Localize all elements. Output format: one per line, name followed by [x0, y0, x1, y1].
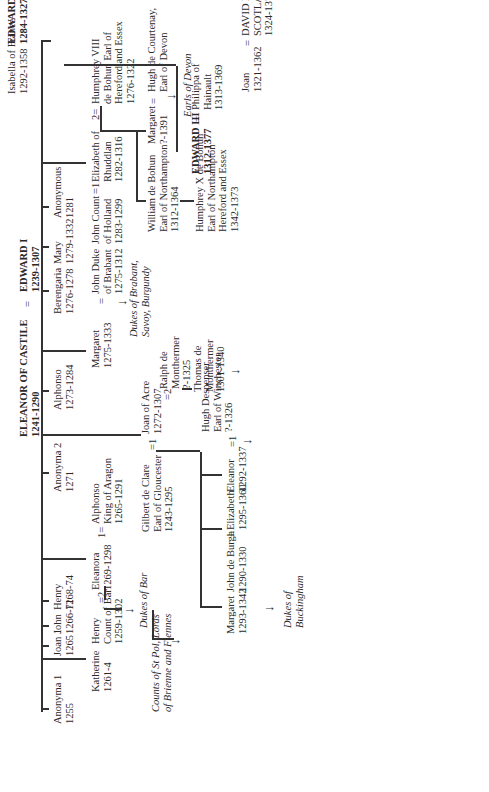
person-william-de-bohun: William de BohunEarl of Northampton1312-…: [146, 145, 181, 232]
marriage-symbol: =1: [227, 436, 238, 447]
marriage-symbol: =: [148, 98, 159, 104]
connector: [100, 130, 136, 132]
marriage-symbol: =: [22, 301, 33, 307]
marriage-symbol: =: [242, 40, 253, 46]
person-anonymous: Anonymous1281: [52, 167, 75, 218]
person-katherine: Katherine1261-4: [90, 651, 113, 692]
connector: [41, 350, 86, 352]
person-margaret: Margaret1275-1333: [90, 323, 113, 369]
connector: [41, 708, 49, 710]
person-john-duke-of-brabant: John Dukeof Brabant1275-1312: [90, 249, 125, 295]
connector: [136, 132, 138, 202]
connector: [176, 66, 178, 152]
connector: [41, 246, 49, 248]
connector: [100, 106, 102, 132]
person-eleanor-of-castile: ELEANOR OF CASTILE 1241-1290: [18, 320, 41, 437]
person-henry: Henry1268-74: [52, 575, 75, 610]
connector: [64, 64, 176, 66]
connector: [41, 162, 86, 164]
connector: [41, 434, 141, 436]
person-anonyma-2: Anonyma 21271: [52, 443, 75, 492]
connector: [200, 528, 222, 530]
person-elizabeth-of-rhuddlan: Elizabeth ofRhuddlan1282-1316: [90, 131, 125, 182]
person-john-de-burgh: John de Burgh1290-1330: [225, 531, 248, 592]
marriage-symbol: =: [227, 531, 238, 537]
person-eleanora: Eleanora1269-1298: [90, 545, 113, 591]
connector: [200, 474, 222, 476]
connector: [156, 450, 200, 452]
person-mary: Mary1279-1332: [52, 219, 75, 265]
person-anonyma-1: Anonyma 11255: [52, 675, 75, 724]
connector: [41, 206, 49, 208]
connector: [41, 658, 86, 660]
connector: [104, 608, 122, 610]
connector: [41, 472, 49, 474]
connector: [182, 388, 192, 390]
person-philippa-of-hainault: Philippa ofHainault1313-1369: [190, 64, 225, 110]
marriage-symbol: =1: [147, 439, 158, 450]
person-edward-i: EDWARD I 1239-1307: [18, 239, 41, 292]
person-joan: Joan1321-1362: [240, 47, 263, 93]
marriage-symbol: 1=: [96, 527, 107, 538]
arrow-down-icon: ↓: [228, 369, 241, 376]
connector: [41, 40, 43, 140]
person-hugh-de-courtenay: Hugh de Courtenay,Earl of Devon: [146, 8, 169, 92]
person-alphonso-king-of-aragon: AlphonsoKing of Aragon1265-1291: [90, 458, 125, 524]
note-dukes-of-bar: Dukes of Bar: [138, 573, 150, 628]
marriage-symbol: =: [192, 116, 203, 122]
person-eleanor-de-clare: Eleanor1292-1337: [225, 447, 248, 493]
connector: [41, 290, 49, 292]
person-thomas-de-monthermer: Thomas deMonthermer1301-1340: [192, 340, 227, 393]
connector: [200, 606, 222, 608]
person-edward-ii: EDWARD II1284-1327: [6, 0, 29, 44]
person-gilbert-de-clare: Gilbert de ClareEarl of Gloucester1243-1…: [140, 455, 175, 532]
arrow-down-icon: ↓: [122, 608, 135, 615]
arrow-down-icon: ↓: [262, 606, 275, 613]
marriage-symbol: =2: [162, 389, 173, 400]
note-counts-st-pol: Counts of St Pol, Lordsof Brienne and Fi…: [150, 614, 173, 712]
connector: [41, 625, 49, 627]
marriage-symbol: =1: [90, 183, 101, 194]
connector: [136, 130, 146, 132]
family-tree-canvas: ELEANOR OF CASTILE 1241-1290 = EDWARD I …: [0, 0, 489, 792]
arrow-down-icon: ↓: [240, 439, 253, 446]
person-margaret-de-bohun: Margaret?-1391: [146, 106, 169, 144]
person-margaret-de-clare: Margaret1293-1342: [225, 589, 248, 635]
connector: [136, 200, 146, 202]
marriage-symbol: =: [96, 298, 107, 304]
connector: [180, 200, 194, 202]
connector: [104, 586, 106, 600]
person-john-count-of-holland: John Countof Holland1283-1299: [90, 196, 125, 244]
note-dukes-of-buckingham: Dukes ofBuckingham: [282, 576, 305, 629]
connector: [41, 600, 49, 602]
person-alphonso: Alphonso1273-1284: [52, 365, 75, 411]
connector: [41, 558, 86, 560]
note-dukes-of-brabant: Dukes of Brabant,Savoy, Burgundy: [128, 260, 151, 337]
connector: [41, 645, 49, 647]
person-humphrey-viii: Humphrey VIIIde Bohun Earl ofHereford an…: [90, 21, 136, 104]
person-ralph-de-monthermer: Ralph deMonthermer?-1325: [158, 337, 193, 390]
person-berengaria: Berengaria1276-1278: [52, 268, 75, 314]
person-david-ii: DAVID II ofSCOTLAND1324-1371: [240, 0, 275, 36]
arrow-down-icon: ↓: [115, 300, 128, 307]
connector: [41, 390, 49, 392]
